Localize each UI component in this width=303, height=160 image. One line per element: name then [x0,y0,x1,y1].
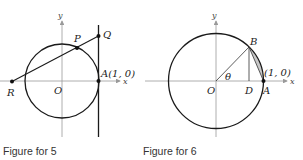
y-axis-label: y [211,11,217,20]
point-a [262,79,266,83]
point-p [75,46,79,50]
radius-ob [216,47,249,81]
x-axis-label: x [290,77,295,86]
figure-5: y x P Q R O A(1, 0) Figure for 5 [0,11,135,157]
label-r: R [6,87,15,98]
label-q: Q [103,29,111,40]
label-theta: θ [225,71,231,82]
label-o: O [207,85,215,96]
point-q [97,34,101,38]
label-d: D [244,85,253,96]
point-a [97,79,101,83]
figure-6: y x B O D A (1, 0) θ Figure for 6 [143,11,295,157]
label-a-coord: (1, 0) [264,67,291,78]
y-axis-label: y [57,11,63,20]
caption-figure-6: Figure for 6 [143,145,197,157]
label-a: A(1, 0) [100,68,135,79]
point-r [10,80,14,84]
label-a: A [262,85,270,96]
line-rq [12,36,99,82]
chord-ba [249,47,264,81]
label-b: B [249,36,257,47]
diagram-canvas: y x P Q R O A(1, 0) Figure for 5 y x B O… [0,0,303,160]
label-p: P [73,33,81,44]
caption-figure-5: Figure for 5 [3,145,57,157]
label-o: O [54,85,62,96]
